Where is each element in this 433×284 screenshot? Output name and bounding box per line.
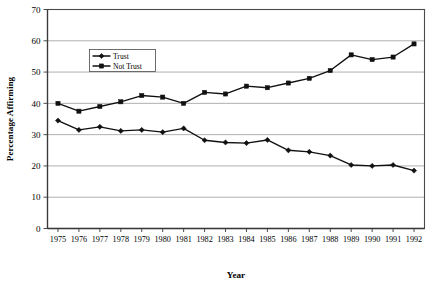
x-tick-label-1978: 1978	[113, 235, 129, 244]
y-tick-label-70: 70	[32, 5, 42, 15]
series-not-trust-marker-4	[140, 93, 144, 97]
series-trust-marker-1	[76, 127, 81, 132]
series-not-trust-marker-15	[370, 57, 374, 61]
y-tick-label-20: 20	[32, 161, 42, 171]
x-tick-label-1985: 1985	[259, 235, 275, 244]
x-tick-label-1975: 1975	[50, 235, 66, 244]
series-not-trust-marker-11	[286, 81, 290, 85]
series-not-trust-marker-7	[202, 90, 206, 94]
series-not-trust-marker-3	[119, 100, 123, 104]
series-trust-marker-11	[286, 148, 291, 153]
series-not-trust-marker-16	[391, 55, 395, 59]
x-tick-label-1979: 1979	[134, 235, 150, 244]
series-trust-marker-5	[160, 130, 165, 135]
x-tick-label-1990: 1990	[364, 235, 380, 244]
series-not-trust-marker-0	[56, 101, 60, 105]
x-tick-label-1982: 1982	[196, 235, 212, 244]
series-trust-marker-17	[411, 168, 416, 173]
series-not-trust-marker-6	[182, 101, 186, 105]
series-trust-marker-0	[55, 118, 60, 123]
x-tick-label-1987: 1987	[301, 235, 317, 244]
x-tick-label-1980: 1980	[155, 235, 171, 244]
x-tick-label-1986: 1986	[280, 235, 296, 244]
legend-label-not-trust: Not Trust	[113, 62, 143, 71]
y-tick-label-10: 10	[32, 192, 42, 202]
x-tick-label-1983: 1983	[217, 235, 233, 244]
x-tick-label-1977: 1977	[92, 235, 108, 244]
series-trust-marker-8	[223, 140, 228, 145]
series-line-trust	[58, 121, 414, 171]
series-not-trust-marker-13	[328, 68, 332, 72]
series-not-trust-marker-12	[307, 76, 311, 80]
y-tick-label-0: 0	[36, 224, 41, 234]
series-trust-marker-16	[390, 162, 395, 167]
series-not-trust-marker-17	[412, 42, 416, 46]
series-trust-marker-3	[118, 128, 123, 133]
x-tick-label-1988: 1988	[322, 235, 338, 244]
series-trust-marker-4	[139, 127, 144, 132]
x-tick-label-1981: 1981	[175, 235, 191, 244]
legend-label-trust: Trust	[113, 52, 130, 61]
series-not-trust-marker-1	[77, 109, 81, 113]
x-tick-label-1992: 1992	[406, 235, 422, 244]
y-tick-label-60: 60	[32, 36, 42, 46]
x-axis-title: Year	[227, 270, 245, 280]
x-tick-label-1991: 1991	[385, 235, 401, 244]
series-not-trust-marker-8	[223, 92, 227, 96]
series-trust-marker-7	[202, 138, 207, 143]
series-not-trust-marker-10	[265, 86, 269, 90]
y-tick-label-40: 40	[32, 99, 42, 109]
series-not-trust-marker-5	[161, 95, 165, 99]
y-tick-label-30: 30	[32, 130, 42, 140]
line-chart: 0102030405060701975197619771978197919801…	[0, 0, 433, 284]
legend-not-trust-marker-0	[99, 64, 103, 68]
series-not-trust-marker-14	[349, 53, 353, 57]
series-trust-marker-12	[307, 149, 312, 154]
x-tick-label-1976: 1976	[71, 235, 87, 244]
y-axis-title: Percentage Affirming	[5, 76, 15, 161]
chart-container: 0102030405060701975197619771978197919801…	[0, 0, 433, 284]
plot-area-border	[48, 10, 425, 229]
x-tick-label-1984: 1984	[238, 235, 254, 244]
series-trust-marker-6	[181, 126, 186, 131]
series-trust-marker-15	[370, 163, 375, 168]
series-not-trust-marker-9	[244, 84, 248, 88]
series-trust-marker-9	[244, 140, 249, 145]
y-tick-label-50: 50	[32, 67, 42, 77]
x-tick-label-1989: 1989	[343, 235, 359, 244]
series-not-trust-marker-2	[98, 104, 102, 108]
series-trust-marker-10	[265, 137, 270, 142]
series-trust-marker-14	[349, 162, 354, 167]
series-trust-marker-2	[97, 124, 102, 129]
series-trust-marker-13	[328, 153, 333, 158]
